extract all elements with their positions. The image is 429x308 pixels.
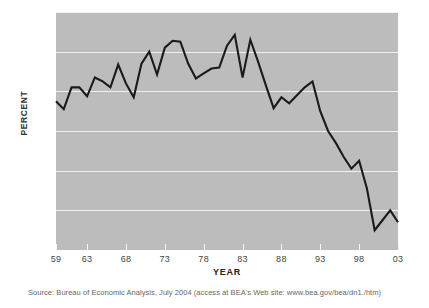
x-tick-mark — [281, 244, 282, 250]
source-note: Source: Bureau of Economic Analysis, Jul… — [28, 288, 381, 297]
x-tick-label: 59 — [41, 254, 71, 264]
data-series-line — [56, 12, 398, 250]
x-tick-label: 83 — [228, 254, 258, 264]
x-tick-label: 68 — [111, 254, 141, 264]
x-tick-mark — [320, 244, 321, 250]
chart-figure: PERCENT 24681012 59636873788388939803 YE… — [0, 0, 429, 308]
x-tick-mark — [204, 244, 205, 250]
x-tick-label: 03 — [383, 254, 413, 264]
x-tick-mark — [165, 244, 166, 250]
x-axis-title: YEAR — [56, 267, 398, 277]
x-tick-mark — [243, 244, 244, 250]
x-tick-mark — [398, 244, 399, 250]
y-axis-title: PERCENT — [19, 85, 29, 141]
x-tick-mark — [359, 244, 360, 250]
x-tick-mark — [87, 244, 88, 250]
x-tick-label: 63 — [72, 254, 102, 264]
x-tick-label: 98 — [344, 254, 374, 264]
plot-area — [56, 12, 398, 250]
x-tick-label: 73 — [150, 254, 180, 264]
x-tick-mark — [126, 244, 127, 250]
x-tick-label: 93 — [305, 254, 335, 264]
x-tick-label: 78 — [189, 254, 219, 264]
x-tick-mark — [56, 244, 57, 250]
x-tick-label: 88 — [266, 254, 296, 264]
